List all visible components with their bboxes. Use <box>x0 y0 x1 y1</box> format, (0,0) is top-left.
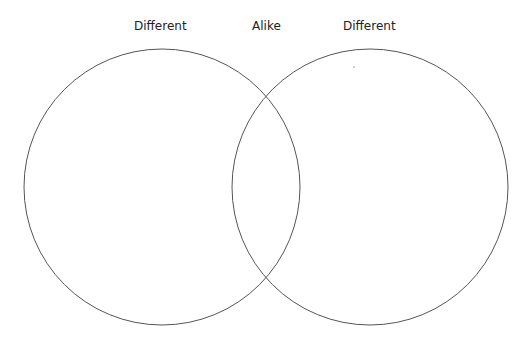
right-circle <box>232 49 508 325</box>
left-circle <box>24 49 300 325</box>
venn-diagram <box>0 0 532 350</box>
stray-dot <box>353 66 355 68</box>
